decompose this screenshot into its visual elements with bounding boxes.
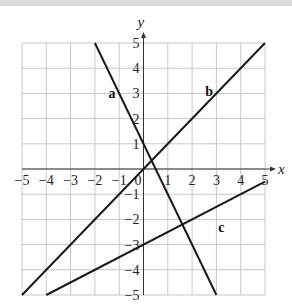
x-tick-label: 3 — [213, 173, 220, 188]
x-tick-label: 4 — [237, 173, 244, 188]
y-axis-label: y — [136, 14, 145, 30]
x-tick-label: −3 — [63, 173, 78, 188]
line-label-b: b — [205, 84, 213, 99]
y-tick-label: −5 — [125, 288, 140, 303]
y-tick-label: 3 — [133, 86, 140, 101]
x-tick-label: 5 — [262, 173, 269, 188]
y-tick-label: 4 — [133, 61, 140, 76]
x-tick-label: −5 — [15, 173, 30, 188]
x-tick-label: −4 — [39, 173, 54, 188]
line-label-c: c — [218, 220, 224, 235]
y-tick-label: −4 — [125, 263, 140, 278]
line-label-a: a — [108, 86, 115, 101]
y-tick-label: −2 — [125, 212, 140, 227]
x-tick-label: −2 — [87, 173, 102, 188]
x-tick-label: 2 — [189, 173, 196, 188]
y-tick-label: 5 — [133, 36, 140, 51]
y-tick-label: 1 — [133, 137, 140, 152]
x-axis-label: x — [277, 161, 285, 177]
x-tick-label: 1 — [164, 173, 171, 188]
y-axis-arrow-icon — [141, 32, 146, 38]
x-axis-arrow-icon — [270, 167, 276, 172]
line-chart: xy −5−4−3−2−1012345−5−4−3−2−112345 abc — [0, 0, 292, 305]
y-tick-label: −1 — [125, 187, 140, 202]
line-c — [46, 182, 265, 295]
x-tick-label: −1 — [112, 173, 127, 188]
